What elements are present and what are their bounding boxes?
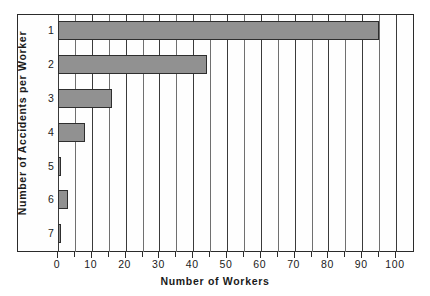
bar-series xyxy=(58,15,396,252)
x-tick-minor xyxy=(378,252,379,257)
x-tick-minor xyxy=(175,252,176,257)
y-tick-label: 4 xyxy=(38,126,54,138)
x-tick-minor xyxy=(74,252,75,257)
plot-frame xyxy=(17,14,414,252)
bar xyxy=(58,123,85,142)
x-tick-label: 10 xyxy=(84,258,97,270)
x-tick-minor xyxy=(243,252,244,257)
x-axis-tick-labels: 0102030405060708090100 xyxy=(0,258,430,274)
bar xyxy=(58,21,379,40)
x-tick-minor xyxy=(209,252,210,257)
x-tick-minor xyxy=(277,252,278,257)
x-tick-label: 30 xyxy=(152,258,165,270)
y-tick-label: 2 xyxy=(38,58,54,70)
y-tick-label: 5 xyxy=(38,160,54,172)
x-axis-title: Number of Workers xyxy=(0,275,430,287)
x-tick-label: 40 xyxy=(186,258,199,270)
bar xyxy=(58,157,61,176)
x-tick-minor xyxy=(108,252,109,257)
bar xyxy=(58,224,61,243)
x-tick-label: 0 xyxy=(54,258,60,270)
gridline-major xyxy=(396,15,397,252)
x-tick-minor xyxy=(142,252,143,257)
x-tick-label: 100 xyxy=(385,258,404,270)
x-tick-label: 20 xyxy=(118,258,131,270)
bar-chart-figure: 1234567 0102030405060708090100 Number of… xyxy=(0,0,430,296)
x-tick-minor xyxy=(311,252,312,257)
x-tick-label: 70 xyxy=(287,258,300,270)
x-tick-label: 50 xyxy=(220,258,233,270)
y-axis-title: Number of Accidents per Worker xyxy=(16,18,28,228)
x-tick-label: 60 xyxy=(253,258,266,270)
y-tick-label: 1 xyxy=(38,24,54,36)
x-tick-label: 80 xyxy=(321,258,334,270)
y-tick-label: 3 xyxy=(38,92,54,104)
bar xyxy=(58,89,112,108)
bar xyxy=(58,190,68,209)
y-tick-label: 7 xyxy=(38,227,54,239)
x-tick-minor xyxy=(344,252,345,257)
x-tick-label: 90 xyxy=(355,258,368,270)
y-tick-label: 6 xyxy=(38,193,54,205)
bar xyxy=(58,55,207,74)
